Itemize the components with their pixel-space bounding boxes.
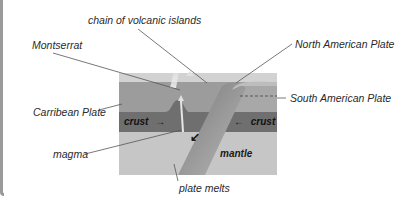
leader-montserrat bbox=[53, 53, 180, 90]
label-carribean-plate: Carribean Plate bbox=[33, 106, 106, 118]
arrow-down-left-icon: ↙ bbox=[190, 131, 200, 143]
label-plate-melts: plate melts bbox=[179, 182, 230, 194]
ocean-layer bbox=[119, 73, 277, 83]
arrow-left-icon: ← bbox=[234, 116, 244, 127]
label-south-american-plate: South American Plate bbox=[290, 92, 391, 104]
label-chain-of-volcanic-islands: chain of volcanic islands bbox=[88, 14, 201, 26]
diagram-frame: chain of volcanic islands Montserrat Nor… bbox=[0, 0, 406, 201]
label-north-american-plate: North American Plate bbox=[295, 38, 394, 50]
crust-right-text: crust bbox=[251, 116, 275, 127]
label-magma: magma bbox=[53, 148, 88, 160]
crust-left-text: crust bbox=[124, 116, 148, 127]
arrow-right-icon: → bbox=[155, 116, 165, 127]
label-crust-right: ← crust bbox=[234, 116, 275, 128]
label-crust-left: crust → bbox=[124, 116, 165, 128]
label-montserrat: Montserrat bbox=[32, 39, 82, 51]
label-mantle: mantle bbox=[220, 148, 252, 160]
